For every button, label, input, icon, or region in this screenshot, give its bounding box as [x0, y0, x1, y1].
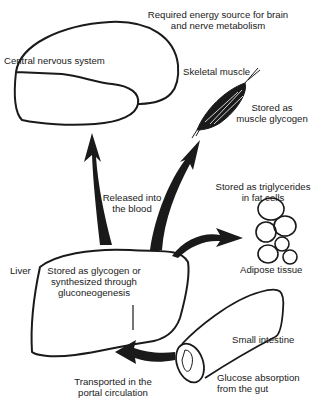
arrow-portal: [115, 340, 175, 364]
intestine-caption-line2: from the gut: [217, 383, 300, 394]
brain-caption: Required energy source for brain and ner…: [118, 9, 318, 31]
muscle-caption: Stored as muscle glycogen: [232, 102, 312, 124]
intestine-caption: Glucose absorption from the gut: [217, 372, 300, 394]
adipose-caption: Stored as triglycerides in fat cells: [208, 181, 318, 203]
adipose-caption-line2: in fat cells: [208, 192, 318, 203]
blood-edge-label: Released into the blood: [97, 192, 167, 214]
muscle-caption-line2: muscle glycogen: [232, 113, 312, 124]
brain-caption-line2: and nerve metabolism: [118, 20, 318, 31]
brain-caption-line1: Required energy source for brain: [118, 9, 318, 20]
liver-caption: Stored as glycogen or synthesized throug…: [38, 265, 150, 298]
brain-outline: [15, 22, 178, 125]
liver-label: Liver: [10, 265, 31, 276]
intestine-label: Small intestine: [232, 334, 294, 345]
adipose-cells: [256, 198, 297, 264]
liver-caption-line3: gluconeogenesis: [38, 287, 150, 298]
adipose-caption-line1: Stored as triglycerides: [208, 181, 318, 192]
blood-label-line2: the blood: [97, 203, 167, 214]
portal-label-line1: Transported in the: [68, 376, 158, 387]
blood-label-line1: Released into: [97, 192, 167, 203]
liver-caption-line1: Stored as glycogen or: [38, 265, 150, 276]
intestine-caption-line1: Glucose absorption: [217, 372, 300, 383]
muscle-label: Skeletal muscle: [183, 66, 250, 77]
portal-label-line2: portal circulation: [68, 387, 158, 398]
muscle-caption-line1: Stored as: [232, 102, 312, 113]
arrow-to-brain: [84, 133, 112, 245]
brain-label: Central nervous system: [4, 55, 105, 66]
portal-edge-label: Transported in the portal circulation: [68, 376, 158, 398]
arrow-to-adipose: [172, 228, 243, 258]
adipose-label: Adipose tissue: [240, 264, 302, 275]
liver-caption-line2: synthesized through: [38, 276, 150, 287]
